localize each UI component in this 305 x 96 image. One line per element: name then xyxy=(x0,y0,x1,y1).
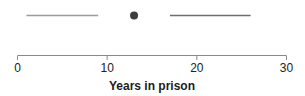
estimate-dot xyxy=(130,12,138,20)
chart-generated-layer: 0102030 xyxy=(14,12,293,76)
x-tick-label: 30 xyxy=(280,61,294,75)
x-tick-label: 20 xyxy=(190,61,204,75)
x-tick-label: 0 xyxy=(14,61,21,75)
prison-years-chart: 0102030 Years in prison xyxy=(0,0,305,96)
x-tick-label: 10 xyxy=(100,61,114,75)
x-axis-title: Years in prison xyxy=(109,79,195,93)
prison-years-figure: 0102030 Years in prison xyxy=(0,0,305,96)
